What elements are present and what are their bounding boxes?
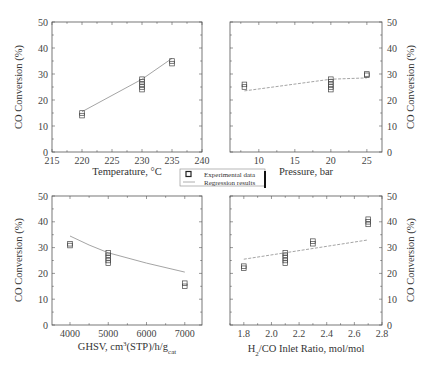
x-tick-label: 1.8	[238, 328, 251, 339]
panel-ghsv-vs-conversion: 010203040504000500060007000CO Conversion…	[13, 191, 202, 357]
y-tick-label: 10	[38, 121, 48, 132]
legend: Experimental data Regression results	[180, 169, 266, 188]
x-tick-label: 20	[326, 155, 336, 166]
y-tick-label: 10	[387, 294, 397, 305]
x-tick-label: 225	[105, 155, 120, 166]
legend-label-regression: Regression results	[204, 179, 255, 187]
data-point-square-icon	[365, 73, 370, 78]
y-tick-label: 0	[43, 320, 48, 331]
x-tick-label: 235	[165, 155, 180, 166]
x-axis-title: H2/CO Inlet Ratio, mol/mol	[248, 343, 365, 358]
regression-line	[70, 236, 185, 272]
data-point-square-icon	[182, 281, 187, 286]
y-tick-label: 50	[38, 191, 48, 202]
y-tick-label: 40	[38, 216, 48, 227]
x-tick-label: 240	[195, 155, 210, 166]
y-axis-title: CO Conversion (%)	[13, 218, 25, 302]
data-point-square-icon	[68, 243, 73, 248]
y-tick-label: 50	[387, 191, 397, 202]
x-tick-label: 15	[290, 155, 300, 166]
panel-pressure-vs-conversion: 0102030405010152025CO Conversion (%)Pres…	[230, 17, 417, 178]
panel-temperature-vs-conversion: 01020304050215220225230235240CO Conversi…	[13, 17, 210, 178]
y-tick-label: 10	[387, 121, 397, 132]
plot-frame	[230, 196, 382, 325]
y-tick-label: 30	[38, 69, 48, 80]
plot-frame	[230, 22, 382, 152]
x-tick-label: 2.0	[265, 328, 278, 339]
y-tick-label: 20	[38, 268, 48, 279]
legend-shadow	[264, 171, 266, 188]
data-point-square-icon	[365, 72, 370, 77]
x-tick-label: 10	[254, 155, 264, 166]
x-axis-title: GHSV, cm3(STP)/h/gcat	[78, 340, 176, 356]
plot-frame	[52, 196, 202, 325]
x-axis-title: Temperature, °C	[92, 166, 161, 177]
y-axis-title: CO Conversion (%)	[405, 218, 417, 302]
y-tick-label: 20	[387, 95, 397, 106]
x-tick-label: 215	[45, 155, 60, 166]
regression-line	[244, 78, 367, 91]
x-tick-label: 7000	[175, 328, 195, 339]
x-tick-label: 4000	[60, 328, 80, 339]
data-point-square-icon	[68, 241, 73, 246]
y-tick-label: 40	[38, 43, 48, 54]
y-tick-label: 40	[387, 216, 397, 227]
y-tick-label: 50	[387, 17, 397, 28]
y-axis-title: CO Conversion (%)	[13, 45, 25, 129]
x-axis-title: Pressure, bar	[279, 166, 334, 177]
x-tick-label: 230	[135, 155, 150, 166]
y-tick-label: 30	[387, 69, 397, 80]
x-tick-label: 2.8	[376, 328, 389, 339]
y-tick-label: 30	[387, 242, 397, 253]
y-tick-label: 20	[38, 95, 48, 106]
y-axis-title: CO Conversion (%)	[405, 45, 417, 129]
panel-h2co-ratio-vs-conversion: 010203040501.82.02.22.42.62.8CO Conversi…	[230, 191, 417, 359]
x-tick-label: 6000	[137, 328, 157, 339]
x-tick-label: 25	[362, 155, 372, 166]
y-tick-label: 10	[38, 294, 48, 305]
regression-line	[82, 58, 172, 111]
y-tick-label: 40	[387, 43, 397, 54]
figure: 01020304050215220225230235240CO Conversi…	[0, 0, 431, 374]
x-tick-label: 2.4	[320, 328, 333, 339]
x-tick-label: 5000	[98, 328, 118, 339]
y-tick-label: 20	[387, 268, 397, 279]
y-tick-label: 0	[387, 147, 392, 158]
x-tick-label: 2.2	[293, 328, 306, 339]
y-tick-label: 50	[38, 17, 48, 28]
data-point-square-icon	[182, 284, 187, 289]
regression-line	[244, 240, 368, 259]
x-tick-label: 220	[75, 155, 90, 166]
y-tick-label: 30	[38, 242, 48, 253]
x-tick-label: 2.6	[348, 328, 361, 339]
